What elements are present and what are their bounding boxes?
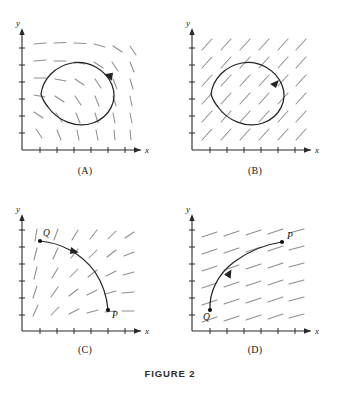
x-axis-arrowhead bbox=[304, 328, 311, 334]
point-p-label: P bbox=[286, 231, 293, 241]
x-axis-label: x bbox=[314, 326, 319, 336]
x-axis-arrowhead bbox=[134, 147, 141, 153]
y-axis-label: y bbox=[185, 18, 190, 28]
panel-a-caption: (A) bbox=[0, 165, 170, 176]
curve-d: Q P bbox=[203, 231, 293, 322]
x-axis-arrowhead bbox=[304, 147, 311, 153]
x-axis-label: x bbox=[314, 145, 319, 155]
curve-c: Q P bbox=[38, 228, 118, 320]
axes-b: x y bbox=[185, 18, 319, 155]
y-axis-label: y bbox=[185, 204, 190, 214]
panel-a-plot: x y bbox=[0, 2, 170, 182]
direction-arrowhead-b bbox=[270, 80, 279, 88]
panel-d-caption: (D) bbox=[170, 344, 340, 355]
y-axis-label: y bbox=[15, 18, 20, 28]
x-axis-arrowhead bbox=[134, 328, 141, 334]
figure-container: x y bbox=[0, 0, 340, 398]
y-axis-arrowhead bbox=[189, 214, 194, 221]
x-axis-label: x bbox=[144, 326, 149, 336]
y-axis-arrowhead bbox=[189, 28, 194, 35]
panel-d-plot: x y bbox=[170, 192, 340, 362]
y-axis-arrowhead bbox=[19, 214, 24, 221]
point-p-label: P bbox=[111, 310, 118, 320]
panel-c: x y bbox=[0, 192, 170, 372]
panel-b-caption: (B) bbox=[170, 165, 340, 176]
point-p-dot bbox=[280, 240, 284, 244]
point-q-label: Q bbox=[203, 312, 210, 322]
point-q-label: Q bbox=[43, 228, 50, 238]
point-q-dot bbox=[38, 239, 42, 243]
panel-a: x y bbox=[0, 2, 170, 182]
panel-b-plot: x y bbox=[170, 2, 340, 182]
vector-field-d bbox=[202, 229, 304, 322]
point-p-dot bbox=[106, 308, 110, 312]
y-axis-label: y bbox=[15, 204, 20, 214]
y-axis-arrowhead bbox=[19, 28, 24, 35]
axes-c: x y bbox=[15, 204, 149, 336]
axes-a: x y bbox=[15, 18, 149, 155]
panel-c-plot: x y bbox=[0, 192, 170, 362]
curve-b bbox=[211, 62, 284, 124]
panel-d: x y bbox=[170, 192, 340, 372]
panel-c-caption: (C) bbox=[0, 344, 170, 355]
figure-label: FIGURE 2 bbox=[0, 368, 340, 379]
x-axis-label: x bbox=[144, 145, 149, 155]
panel-b: x y bbox=[170, 2, 340, 182]
